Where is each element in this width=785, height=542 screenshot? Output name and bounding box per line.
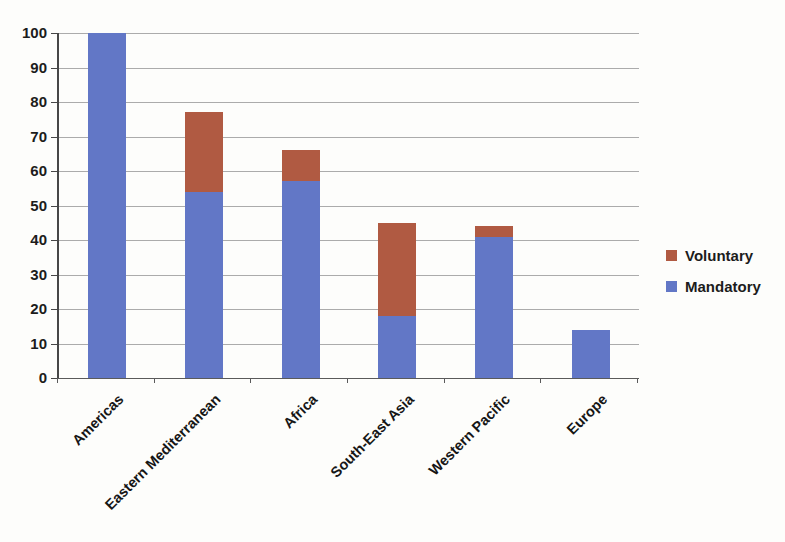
y-axis-label-40: 40	[0, 231, 47, 249]
legend: VoluntaryMandatory	[666, 247, 761, 295]
y-axis-tick-20	[51, 309, 57, 310]
gridline-y-60	[59, 171, 639, 172]
y-axis-tick-30	[51, 275, 57, 276]
legend-label-voluntary: Voluntary	[685, 247, 753, 264]
gridline-y-90	[59, 68, 639, 69]
legend-item-mandatory: Mandatory	[666, 278, 761, 295]
y-axis-tick-90	[51, 68, 57, 69]
y-axis-tick-80	[51, 102, 57, 103]
gridline-y-30	[59, 275, 639, 276]
y-axis-tick-10	[51, 344, 57, 345]
y-axis-tick-60	[51, 171, 57, 172]
y-axis-label-10: 10	[0, 335, 47, 353]
x-axis-label-africa: Africa	[280, 391, 321, 432]
bar-segment-mandatory-africa	[282, 181, 320, 378]
x-axis-tick-0	[57, 378, 58, 383]
x-axis-tick-3	[347, 378, 348, 383]
bar-segment-mandatory-europe	[572, 330, 610, 378]
gridline-y-40	[59, 240, 639, 241]
x-axis-tick-2	[250, 378, 251, 383]
legend-swatch-mandatory-icon	[666, 281, 677, 292]
gridline-y-80	[59, 102, 639, 103]
bar-segment-mandatory-americas	[88, 33, 126, 378]
x-axis-label-south-east-asia: South-East Asia	[327, 391, 417, 481]
x-axis-tick-5	[540, 378, 541, 383]
y-axis-label-50: 50	[0, 197, 47, 215]
bar-segment-mandatory-eastern-mediterranean	[185, 192, 223, 378]
gridline-y-100	[59, 33, 639, 34]
bar-segment-mandatory-western-pacific	[475, 237, 513, 378]
x-axis-label-americas: Americas	[69, 391, 127, 449]
y-axis-label-0: 0	[0, 369, 47, 387]
x-axis-label-europe: Europe	[563, 391, 610, 438]
y-axis-label-70: 70	[0, 128, 47, 146]
y-axis-label-100: 100	[0, 24, 47, 42]
bar-segment-voluntary-eastern-mediterranean	[185, 112, 223, 191]
x-axis-tick-6	[637, 378, 638, 383]
y-axis-label-80: 80	[0, 93, 47, 111]
gridline-y-10	[59, 344, 639, 345]
y-axis-tick-40	[51, 240, 57, 241]
plot-area	[57, 33, 639, 379]
legend-item-voluntary: Voluntary	[666, 247, 761, 264]
y-axis-tick-70	[51, 137, 57, 138]
y-axis-label-20: 20	[0, 300, 47, 318]
y-axis-label-60: 60	[0, 162, 47, 180]
gridline-y-50	[59, 206, 639, 207]
y-axis-label-30: 30	[0, 266, 47, 284]
y-axis-tick-100	[51, 33, 57, 34]
bar-segment-voluntary-south-east-asia	[378, 223, 416, 316]
y-axis-label-90: 90	[0, 59, 47, 77]
gridline-y-70	[59, 137, 639, 138]
bar-segment-voluntary-western-pacific	[475, 226, 513, 236]
legend-label-mandatory: Mandatory	[685, 278, 761, 295]
x-axis-tick-4	[444, 378, 445, 383]
bar-segment-voluntary-africa	[282, 150, 320, 181]
y-axis-tick-50	[51, 206, 57, 207]
x-axis-label-western-pacific: Western Pacific	[426, 391, 514, 479]
gridline-y-20	[59, 309, 639, 310]
x-axis-tick-1	[154, 378, 155, 383]
bar-segment-mandatory-south-east-asia	[378, 316, 416, 378]
chart-canvas: 0102030405060708090100 AmericasEastern M…	[0, 0, 785, 542]
legend-swatch-voluntary-icon	[666, 250, 677, 261]
